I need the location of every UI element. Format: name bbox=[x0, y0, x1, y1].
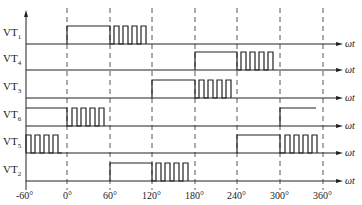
tick-label: 240° bbox=[227, 190, 246, 201]
tick-label: 300° bbox=[270, 190, 289, 201]
omega-t-label: ωt bbox=[345, 92, 355, 103]
waveform-vt5 bbox=[26, 135, 62, 153]
label-vt4: VT4 bbox=[3, 52, 22, 67]
angle-gridlines bbox=[67, 8, 323, 190]
tick-label: 360° bbox=[313, 190, 332, 201]
omega-t-label: ωt bbox=[345, 64, 355, 75]
tick-label: 180° bbox=[185, 190, 204, 201]
label-vt3: VT3 bbox=[3, 80, 22, 95]
waveform-vt6 bbox=[26, 108, 104, 126]
arrow-right-icon bbox=[336, 96, 343, 100]
waveforms bbox=[26, 26, 317, 181]
tick-label: 60° bbox=[103, 190, 117, 201]
waveform-vt2 bbox=[110, 163, 188, 181]
switching-waveform-diagram: VT1 VT4 VT3 VT6 VT5 VT2 ωt ωt ωt ωt ωt ω… bbox=[0, 0, 362, 205]
tick-label: 120° bbox=[142, 190, 161, 201]
waveform-vt5-b bbox=[237, 135, 317, 153]
omega-t-label: ωt bbox=[345, 147, 355, 158]
label-vt5: VT5 bbox=[3, 135, 22, 150]
waveform-vt3 bbox=[152, 80, 231, 98]
label-vt1: VT1 bbox=[3, 26, 22, 41]
tick-label: -60° bbox=[16, 190, 33, 201]
arrow-right-icon bbox=[336, 68, 343, 72]
time-axes bbox=[26, 44, 338, 181]
label-vt6: VT6 bbox=[3, 108, 22, 123]
omega-t-label: ωt bbox=[345, 175, 355, 186]
label-vt2: VT2 bbox=[3, 163, 22, 178]
waveform-vt4 bbox=[195, 52, 273, 70]
arrow-right-icon bbox=[336, 179, 343, 183]
tick-label: 0° bbox=[63, 190, 72, 201]
time-axis-arrows bbox=[336, 42, 343, 183]
omega-t-label: ωt bbox=[345, 120, 355, 131]
waveform-vt1 bbox=[67, 26, 146, 44]
y-axis-arrow-icon bbox=[24, 10, 28, 17]
waveform-vt6-b bbox=[280, 108, 316, 126]
arrow-right-icon bbox=[336, 42, 343, 46]
arrow-right-icon bbox=[336, 124, 343, 128]
omega-t-label: ωt bbox=[345, 38, 355, 49]
arrow-right-icon bbox=[336, 151, 343, 155]
